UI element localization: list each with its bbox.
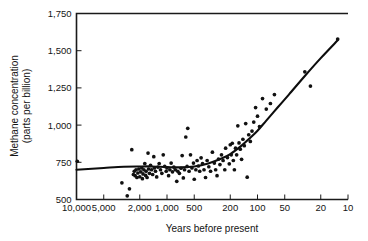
data-point (130, 148, 134, 152)
y-axis-title: Methane concentration (parts per billion… (9, 55, 32, 157)
data-point (148, 171, 152, 175)
x-tick-label: 1,000 (155, 202, 179, 213)
data-point (224, 146, 228, 150)
data-point (205, 159, 209, 163)
data-point (229, 153, 233, 157)
data-point (195, 159, 199, 163)
data-point (248, 140, 252, 144)
data-point (254, 106, 258, 110)
data-point (156, 165, 160, 169)
trend-curve (77, 40, 338, 169)
data-point (236, 124, 240, 128)
data-point (231, 159, 235, 163)
data-point (202, 168, 206, 172)
data-point (180, 154, 184, 158)
x-tick-label: 10 (343, 202, 354, 213)
data-point (242, 144, 246, 148)
data-point (190, 166, 194, 170)
data-point (303, 70, 307, 74)
data-point (199, 156, 203, 160)
data-point (179, 166, 183, 170)
data-point (227, 162, 231, 166)
methane-concentration-figure: 5007501,0001,2501,5001,750 10,0005,0002,… (0, 0, 368, 241)
y-axis-title-line2: (parts per billion) (21, 69, 32, 143)
data-point (309, 84, 313, 88)
data-point (197, 164, 201, 168)
x-tick-label: 10,000 (62, 202, 91, 213)
x-tick-label: 100 (250, 202, 266, 213)
data-point (143, 162, 147, 166)
y-axis-title-line1: Methane concentration (9, 55, 20, 157)
data-point (264, 107, 268, 111)
data-point (273, 93, 277, 97)
data-point (145, 176, 149, 180)
y-tick-label: 1,250 (48, 82, 72, 93)
x-tick-label: 5,000 (92, 202, 116, 213)
x-tick-label: 500 (186, 202, 202, 213)
data-point (192, 177, 196, 181)
data-point (183, 168, 187, 172)
x-axis-title: Years before present (166, 223, 259, 234)
data-point (218, 163, 222, 167)
data-point (220, 153, 224, 157)
data-point (147, 167, 151, 171)
data-point (152, 155, 156, 159)
x-tick-label: 200 (222, 202, 238, 213)
data-point (201, 162, 205, 166)
data-point (258, 125, 262, 129)
y-tick-label: 750 (56, 157, 72, 168)
data-point (167, 174, 171, 178)
data-point (252, 120, 256, 124)
data-point (186, 127, 190, 131)
data-point (175, 180, 179, 184)
data-point (235, 153, 239, 157)
data-point (189, 153, 193, 157)
data-point (160, 171, 164, 175)
scatter-points (75, 37, 339, 197)
data-point (157, 162, 161, 166)
data-point (212, 161, 216, 165)
data-point (215, 174, 219, 178)
data-point (149, 163, 153, 167)
data-point (250, 129, 254, 133)
chart-canvas: 5007501,0001,2501,5001,750 10,0005,0002,… (0, 0, 368, 241)
data-point (164, 169, 168, 173)
data-point (151, 173, 155, 177)
data-point (223, 168, 227, 172)
data-point (161, 153, 165, 157)
data-point (244, 122, 248, 126)
y-tick-label: 1,000 (48, 120, 72, 131)
data-point (187, 169, 191, 173)
x-tick-label: 2,000 (128, 202, 152, 213)
data-point (159, 168, 163, 172)
data-point (207, 165, 211, 169)
data-point (155, 175, 159, 179)
data-point (256, 114, 260, 118)
data-point (204, 176, 208, 180)
data-point (192, 161, 196, 165)
data-point (181, 176, 185, 180)
data-point (185, 165, 189, 169)
data-point (240, 157, 244, 161)
x-axis-ticks: 10,0005,0002,0001,000500200100502010 (62, 195, 353, 214)
data-point (336, 37, 340, 41)
data-point (152, 166, 156, 170)
data-point (211, 150, 215, 154)
data-point (141, 177, 145, 181)
data-point (241, 137, 245, 141)
data-point (75, 159, 79, 163)
data-point (247, 133, 251, 137)
data-point (238, 147, 242, 151)
data-point (217, 157, 221, 161)
data-point (128, 187, 132, 191)
data-point (233, 168, 237, 172)
data-point (125, 194, 129, 198)
data-point (214, 168, 218, 172)
data-point (234, 146, 238, 150)
data-point (226, 156, 230, 160)
data-point (221, 159, 225, 163)
data-point (198, 169, 202, 173)
data-point (184, 135, 188, 139)
y-tick-label: 1,500 (48, 45, 72, 56)
data-point (269, 102, 273, 106)
